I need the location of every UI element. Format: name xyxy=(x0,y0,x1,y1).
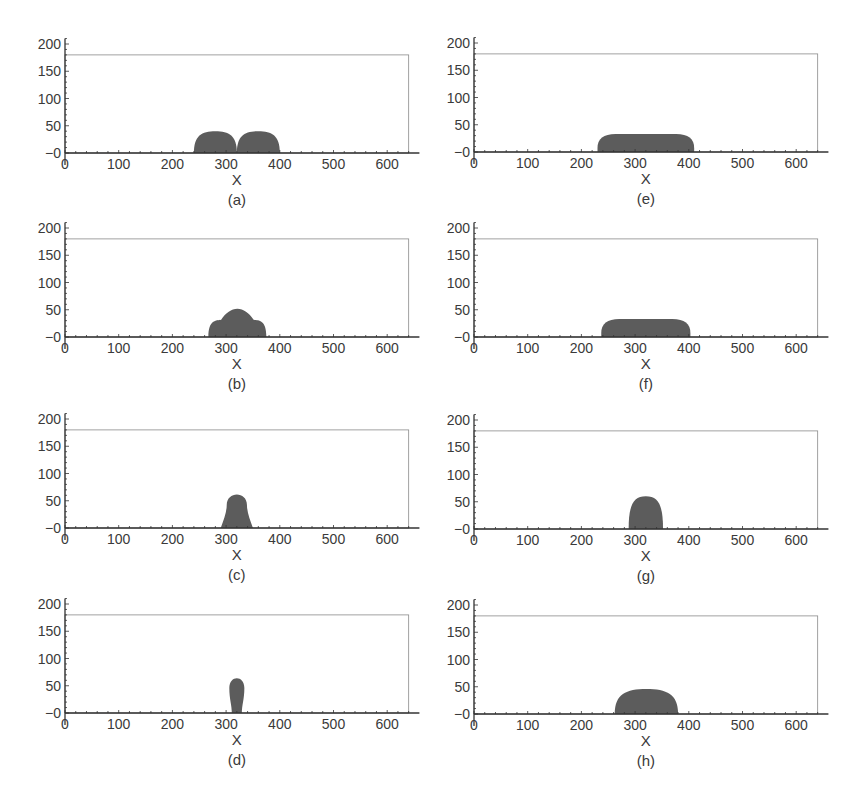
x-tick-label: 200 xyxy=(570,155,594,171)
x-tick-label: 200 xyxy=(161,531,185,547)
y-tick-label: 100 xyxy=(38,275,62,291)
x-axis-label: X xyxy=(232,546,242,563)
x-tick-label: 300 xyxy=(623,155,647,171)
droplet-shape xyxy=(601,319,690,337)
x-tick-label: 200 xyxy=(161,340,185,356)
y-tick-label: 150 xyxy=(447,62,471,78)
x-tick-label: 0 xyxy=(470,532,478,548)
x-tick-label: 100 xyxy=(107,716,131,732)
y-tick-label: 100 xyxy=(447,467,471,483)
y-tick-label: 150 xyxy=(38,247,62,263)
x-tick-label: 400 xyxy=(677,340,701,356)
y-tick-label: 200 xyxy=(38,596,62,612)
droplet-shape xyxy=(629,496,663,529)
y-tick-label: 150 xyxy=(38,623,62,639)
x-tick-label: 200 xyxy=(161,716,185,732)
x-tick-label: 300 xyxy=(623,717,647,733)
domain-box xyxy=(65,55,409,153)
y-tick-label: 100 xyxy=(38,651,62,667)
x-tick-label: 0 xyxy=(61,716,69,732)
x-axis: 0100200300400500600 xyxy=(470,526,828,548)
x-tick-label: 500 xyxy=(322,531,346,547)
x-tick-label: 300 xyxy=(214,156,238,172)
y-tick-label: 50 xyxy=(454,679,470,695)
x-tick-label: 300 xyxy=(214,531,238,547)
x-axis: 0100200300400500600 xyxy=(470,711,828,733)
x-tick-label: 100 xyxy=(516,340,540,356)
panel-d: 20015010050−00100200300400500600X(d) xyxy=(38,596,420,768)
y-tick-label: −0 xyxy=(454,521,470,537)
y-tick-label: 200 xyxy=(38,36,62,52)
x-tick-label: 600 xyxy=(376,340,400,356)
panel-label: (h) xyxy=(637,752,655,769)
x-tick-label: 0 xyxy=(470,717,478,733)
x-tick-label: 100 xyxy=(107,340,131,356)
y-axis: 20015010050−0 xyxy=(38,411,69,540)
y-tick-label: 50 xyxy=(45,118,61,134)
droplet-shape xyxy=(194,131,237,153)
y-tick-label: 200 xyxy=(447,597,471,613)
panel-b: 20015010050−00100200300400500600X(b) xyxy=(38,220,420,392)
y-tick-label: 150 xyxy=(38,438,62,454)
y-tick-label: 150 xyxy=(38,63,62,79)
x-tick-label: 100 xyxy=(107,531,131,547)
x-axis-label: X xyxy=(641,170,651,187)
panel-h: 20015010050−00100200300400500600X(h) xyxy=(447,597,829,769)
x-tick-label: 600 xyxy=(785,155,809,171)
x-tick-label: 600 xyxy=(376,156,400,172)
y-tick-label: 200 xyxy=(447,412,471,428)
x-tick-label: 400 xyxy=(677,532,701,548)
y-tick-label: −0 xyxy=(454,706,470,722)
x-tick-label: 600 xyxy=(785,340,809,356)
panel-c: 20015010050−00100200300400500600X(c) xyxy=(38,411,420,583)
x-tick-label: 500 xyxy=(731,340,755,356)
x-axis: 0100200300400500600 xyxy=(61,710,419,732)
x-tick-label: 400 xyxy=(677,717,701,733)
y-tick-label: 50 xyxy=(45,493,61,509)
x-tick-label: 600 xyxy=(785,532,809,548)
x-axis: 0100200300400500600 xyxy=(61,150,419,172)
y-tick-label: 200 xyxy=(447,35,471,51)
y-tick-label: −0 xyxy=(45,520,61,536)
panel-label: (b) xyxy=(228,375,246,392)
y-tick-label: 50 xyxy=(454,117,470,133)
y-tick-label: 100 xyxy=(447,652,471,668)
x-axis: 0100200300400500600 xyxy=(470,334,828,356)
droplet-shape xyxy=(598,134,695,152)
x-axis: 0100200300400500600 xyxy=(470,149,828,171)
x-tick-label: 100 xyxy=(516,717,540,733)
x-tick-label: 500 xyxy=(322,340,346,356)
y-tick-label: 100 xyxy=(447,275,471,291)
y-tick-label: 150 xyxy=(447,624,471,640)
panel-f: 20015010050−00100200300400500600X(f) xyxy=(447,220,829,392)
y-tick-label: 100 xyxy=(447,90,471,106)
y-tick-label: 100 xyxy=(38,91,62,107)
x-tick-label: 400 xyxy=(677,155,701,171)
x-tick-label: 400 xyxy=(268,531,292,547)
x-axis-label: X xyxy=(641,355,651,372)
y-tick-label: −0 xyxy=(45,145,61,161)
x-tick-label: 0 xyxy=(470,155,478,171)
y-tick-label: 150 xyxy=(447,247,471,263)
x-tick-label: 200 xyxy=(161,156,185,172)
y-tick-label: −0 xyxy=(454,329,470,345)
x-axis: 0100200300400500600 xyxy=(61,334,419,356)
x-tick-label: 600 xyxy=(785,717,809,733)
y-tick-label: 50 xyxy=(45,678,61,694)
x-tick-label: 500 xyxy=(322,716,346,732)
x-tick-label: 300 xyxy=(214,340,238,356)
x-tick-label: 0 xyxy=(61,531,69,547)
droplet-shape xyxy=(237,131,280,153)
droplet-shape xyxy=(229,678,244,713)
y-axis: 20015010050−0 xyxy=(38,220,69,349)
x-tick-label: 300 xyxy=(623,340,647,356)
y-axis: 20015010050−0 xyxy=(447,35,478,164)
y-tick-label: 50 xyxy=(45,302,61,318)
x-tick-label: 300 xyxy=(214,716,238,732)
droplet-shape xyxy=(221,494,253,528)
x-tick-label: 200 xyxy=(570,532,594,548)
x-axis-label: X xyxy=(232,731,242,748)
droplet-shape xyxy=(615,689,678,714)
panel-label: (g) xyxy=(637,567,655,584)
y-tick-label: −0 xyxy=(454,144,470,160)
